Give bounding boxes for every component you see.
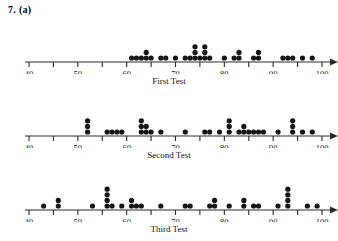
data-dot [241,203,246,208]
data-dot [114,129,119,134]
data-dot [134,203,139,208]
data-dot [109,129,114,134]
axis-arrow-icon [330,133,338,140]
data-dot [192,50,197,55]
axis-tick-label: 50 [74,69,83,74]
data-dot [119,129,124,134]
axis-tick-label: 40 [25,217,34,222]
data-dot [241,198,246,203]
data-dot [246,129,251,134]
data-dot [256,50,261,55]
data-dot [148,129,153,134]
data-dot [56,203,61,208]
axis-tick-label: 50 [74,217,83,222]
axis-tick-label: 90 [269,143,278,148]
data-dot [144,124,149,129]
axis-tick-label: 100 [316,217,329,222]
data-dot [134,55,139,60]
dotplot-third-test-canvas: 405060708090100 [0,170,338,222]
data-dot [275,129,280,134]
data-dot [275,203,280,208]
data-dot [241,129,246,134]
data-dot [144,50,149,55]
dotplot-second-test: 405060708090100 Second Test [0,96,338,166]
data-dot [207,203,212,208]
data-dot [192,55,197,60]
data-dot [105,192,110,197]
dotplot-second-test-caption: Second Test [0,150,338,160]
data-dot [41,203,46,208]
data-dot [315,203,320,208]
data-dot [300,55,305,60]
data-dot [310,129,315,134]
axis-tick-label: 100 [316,143,329,148]
data-dot [251,55,256,60]
axis-tick-label: 90 [269,217,278,222]
data-dot [144,129,149,134]
axis-tick-label: 50 [74,143,83,148]
axis-tick-label: 40 [25,69,34,74]
dotplot-third-test-caption: Third Test [0,224,338,234]
data-dot [236,55,241,60]
data-dot [139,203,144,208]
data-dot [119,203,124,208]
data-dot [310,55,315,60]
dotplot-figure: 7. (a) 405060708090100 First Test 405060… [0,0,338,241]
data-dot [227,124,232,129]
axis-arrow-icon [330,207,338,214]
data-dot [109,203,114,208]
data-dot [183,55,188,60]
data-dot [290,129,295,134]
axis-tick-label: 60 [122,217,131,222]
axis-tick-label: 100 [316,69,329,74]
data-dot [183,203,188,208]
dotplot-third-test: 405060708090100 Third Test [0,170,338,240]
data-dot [305,203,310,208]
axis-tick-label: 40 [25,143,34,148]
data-dot [202,55,207,60]
dotplot-second-test-canvas: 405060708090100 [0,96,338,148]
data-dot [129,198,134,203]
data-dot [227,118,232,123]
data-dot [300,129,305,134]
data-dot [285,198,290,203]
data-dot [251,129,256,134]
data-dot [212,198,217,203]
data-dot [232,55,237,60]
data-dot [261,129,266,134]
data-dot [285,187,290,192]
data-dot [192,44,197,49]
data-dot [85,124,90,129]
data-dot [241,124,246,129]
axis-tick-label: 80 [220,69,229,74]
data-dot [158,55,163,60]
data-dot [227,203,232,208]
data-dot [85,129,90,134]
dotplot-first-test-canvas: 405060708090100 [0,22,338,74]
problem-number-label: 7. (a) [8,4,31,15]
axis-tick-label: 70 [171,217,180,222]
axis-tick-label: 80 [220,143,229,148]
data-dot [158,203,163,208]
data-dot [256,55,261,60]
data-dot [129,55,134,60]
data-dot [90,203,95,208]
data-dot [285,192,290,197]
axis-tick-label: 90 [269,69,278,74]
data-dot [105,129,110,134]
dotplot-first-test: 405060708090100 First Test [0,22,338,92]
data-dot [290,55,295,60]
data-dot [285,55,290,60]
data-dot [202,129,207,134]
data-dot [280,55,285,60]
data-dot [227,129,232,134]
data-dot [197,55,202,60]
data-dot [290,124,295,129]
data-dot [85,118,90,123]
data-dot [129,203,134,208]
data-dot [56,198,61,203]
data-dot [212,203,217,208]
data-dot [217,129,222,134]
data-dot [144,55,149,60]
axis-arrow-icon [330,59,338,66]
